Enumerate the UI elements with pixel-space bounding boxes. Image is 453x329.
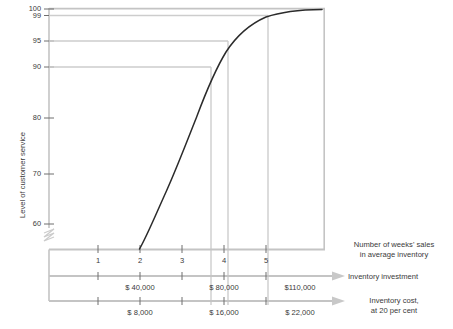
y-tick-label-70: 70 — [19, 169, 41, 178]
cost-tick-label-8000: $ 8,000 — [110, 308, 170, 317]
y-axis-break-icon — [44, 229, 54, 241]
weeks-scale-caption-line1: Number of weeks' sales — [340, 240, 448, 250]
investment-arrow-icon — [332, 272, 345, 281]
service-level-curve — [140, 9, 323, 249]
y-tick-label-60: 60 — [19, 219, 41, 228]
investment-tick-label-40000: $ 40,000 — [110, 283, 170, 292]
weeks-scale-caption-line2: in average inventory — [340, 250, 448, 260]
y-tick-label-99: 99 — [19, 11, 41, 20]
y-tick-label-90: 90 — [19, 62, 41, 71]
weeks-tick-label-4: 4 — [214, 256, 234, 265]
cost-scale-caption: Inventory cost, at 20 per cent — [348, 296, 440, 316]
plot-frame — [49, 8, 325, 250]
cost-tick-label-16000: $ 16,000 — [194, 308, 254, 317]
weeks-scale-caption: Number of weeks' sales in average invent… — [340, 240, 448, 260]
weeks-tick-label-3: 3 — [172, 256, 192, 265]
weeks-tick-label-1: 1 — [88, 256, 108, 265]
weeks-tick-label-5: 5 — [256, 256, 276, 265]
investment-scale-caption: Inventory investment — [348, 272, 418, 282]
cost-scale-caption-line2: at 20 per cent — [348, 306, 440, 316]
scale-tick-marks — [98, 245, 266, 305]
y-tick-label-80: 80 — [19, 113, 41, 122]
cost-arrow-icon — [332, 297, 345, 306]
investment-tick-label-80000: $ 80,000 — [194, 283, 254, 292]
cost-tick-label-22000: $ 22,000 — [270, 308, 330, 317]
reference-gridlines-horizontal — [49, 16, 268, 68]
cost-scale-caption-line1: Inventory cost, — [348, 296, 440, 306]
weeks-tick-label-2: 2 — [130, 256, 150, 265]
chart-figure: Level of customer service 100 99 95 90 8… — [0, 0, 453, 329]
y-tick-label-95: 95 — [19, 36, 41, 45]
investment-tick-label-110000: $110,000 — [270, 283, 330, 292]
